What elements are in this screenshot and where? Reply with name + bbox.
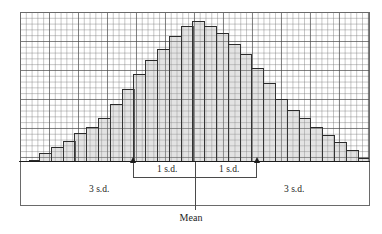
mean-indicator-line	[195, 162, 196, 210]
histogram-bars	[20, 12, 370, 162]
label-three-sd-left: 3 s.d.	[87, 185, 111, 195]
label-mean: Mean	[0, 212, 382, 223]
label-one-sd-right: 1 s.d.	[217, 165, 241, 175]
label-three-sd-right: 3 s.d.	[282, 185, 306, 195]
figure-normal-curve-histogram: 1 s.d. 1 s.d. 3 s.d. 3 s.d. Mean	[0, 0, 382, 234]
label-one-sd-left: 1 s.d.	[155, 165, 179, 175]
